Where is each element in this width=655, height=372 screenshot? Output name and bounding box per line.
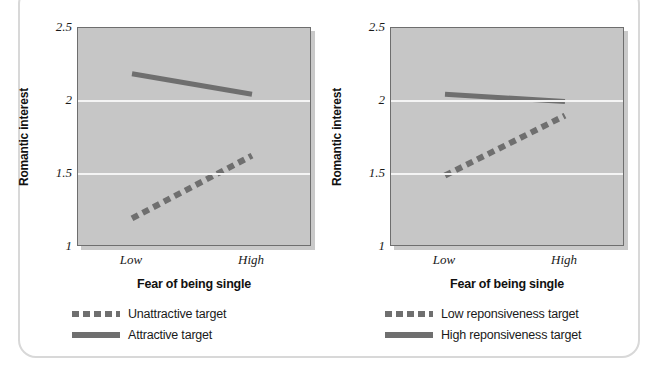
solid-line-swatch-icon [72, 332, 120, 338]
series-lines-right [391, 28, 624, 246]
y-tick-2.5-left: 2.5 [56, 19, 72, 35]
dashed-line-swatch-icon [385, 311, 433, 317]
gridline-2-left [78, 100, 310, 102]
y-tick-1.5-right: 1.5 [369, 165, 385, 181]
plot-canvas-left [77, 27, 311, 246]
series-line-low-reponsiveness-target [445, 116, 565, 176]
y-axis-ticks-right: 2.5 2 1.5 1 [353, 27, 385, 246]
plot-area-right [390, 27, 624, 246]
legend-label-high-reponsiveness-target: High reponsiveness target [441, 328, 581, 342]
x-tick-high-right: High [551, 252, 577, 268]
y-tick-2.5-right: 2.5 [369, 19, 385, 35]
series-line-attractive-target [132, 74, 252, 95]
legend-left: Unattractive target Attractive target [72, 303, 322, 345]
plot-area-left [77, 27, 311, 246]
plot-canvas-right [390, 27, 624, 246]
chart-panel-left: Romantic interest 2.5 2 1.5 1 Low High [0, 0, 320, 372]
x-axis-label-right: Fear of being single [450, 277, 564, 291]
x-tick-low-right: Low [433, 252, 455, 268]
gridline-2-right [391, 100, 623, 102]
y-tick-1-right: 1 [379, 238, 386, 254]
solid-line-swatch-icon [385, 332, 433, 338]
series-lines-left [78, 28, 311, 246]
legend-label-attractive-target: Attractive target [128, 328, 212, 342]
x-tick-high-left: High [238, 252, 264, 268]
gridline-1.5-left [78, 173, 310, 175]
chart-panels: Romantic interest 2.5 2 1.5 1 Low High [0, 0, 655, 372]
legend-label-unattractive-target: Unattractive target [128, 307, 226, 321]
y-axis-label-right: Romantic interest [330, 88, 344, 186]
legend-item-high-reponsiveness-target: High reponsiveness target [385, 324, 635, 345]
chart-panel-right: Romantic interest 2.5 2 1.5 1 Low High [313, 0, 633, 372]
x-tick-low-left: Low [120, 252, 142, 268]
y-tick-1.5-left: 1.5 [56, 165, 72, 181]
dashed-line-swatch-icon [72, 311, 120, 317]
y-tick-2-left: 2 [66, 92, 73, 108]
legend-item-low-reponsiveness-target: Low reponsiveness target [385, 303, 635, 324]
y-tick-2-right: 2 [379, 92, 386, 108]
series-line-unattractive-target [132, 156, 252, 219]
legend-right: Low reponsiveness target High reponsiven… [385, 303, 635, 345]
gridline-1.5-right [391, 173, 623, 175]
legend-label-low-reponsiveness-target: Low reponsiveness target [441, 307, 579, 321]
x-axis-label-left: Fear of being single [137, 277, 251, 291]
y-axis-ticks-left: 2.5 2 1.5 1 [40, 27, 72, 246]
y-tick-1-left: 1 [66, 238, 73, 254]
legend-item-unattractive-target: Unattractive target [72, 303, 322, 324]
y-axis-label-left: Romantic interest [17, 88, 31, 186]
legend-item-attractive-target: Attractive target [72, 324, 322, 345]
